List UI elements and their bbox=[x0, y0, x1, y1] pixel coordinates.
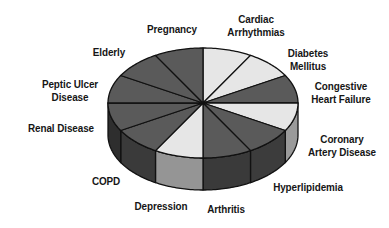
label-line: Depression bbox=[131, 200, 191, 213]
label-diabetes-mellitus: Diabetes Mellitus bbox=[274, 47, 343, 73]
label-line: Renal Disease bbox=[22, 122, 99, 135]
pie-top-slices bbox=[108, 48, 298, 158]
label-line: Congestive bbox=[299, 80, 383, 93]
label-pregnancy: Pregnancy bbox=[143, 23, 201, 36]
label-line: Arthritis bbox=[200, 203, 252, 216]
label-line: Disease bbox=[36, 91, 103, 104]
label-depression: Depression bbox=[131, 200, 191, 213]
label-congestive-heart-failure: Congestive Heart Failure bbox=[299, 80, 383, 106]
label-line: Elderly bbox=[88, 46, 131, 59]
label-cardiac-arrhythmias: Cardiac Arrhythmias bbox=[215, 13, 298, 39]
label-line: Peptic Ulcer bbox=[36, 78, 103, 91]
label-line: Artery Disease bbox=[301, 146, 384, 159]
label-line: Cardiac bbox=[215, 13, 298, 26]
label-elderly: Elderly bbox=[88, 46, 131, 59]
label-line: Hyperlipidemia bbox=[270, 181, 346, 194]
label-line: Arrhythmias bbox=[215, 26, 298, 39]
label-line: Mellitus bbox=[274, 60, 343, 73]
label-line: Diabetes bbox=[274, 47, 343, 60]
label-arthritis: Arthritis bbox=[200, 203, 252, 216]
label-peptic-ulcer-disease: Peptic Ulcer Disease bbox=[36, 78, 103, 104]
label-renal-disease: Renal Disease bbox=[22, 122, 99, 135]
label-line: COPD bbox=[89, 175, 123, 188]
label-coronary-artery-disease: Coronary Artery Disease bbox=[301, 133, 384, 159]
label-hyperlipidemia: Hyperlipidemia bbox=[270, 181, 346, 194]
label-line: Heart Failure bbox=[299, 93, 383, 106]
label-line: Pregnancy bbox=[143, 23, 201, 36]
label-line: Coronary bbox=[301, 133, 384, 146]
label-copd: COPD bbox=[89, 175, 123, 188]
